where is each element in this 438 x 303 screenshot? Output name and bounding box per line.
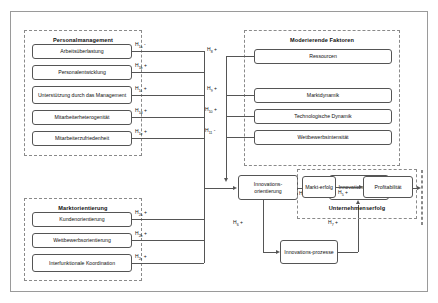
moderator-technologische-dynamik: Technologische Dynamik (254, 109, 392, 124)
hypothesis-h2b-sign: + (144, 230, 147, 236)
group-title-marktorientierung: Marktorientierung (25, 205, 141, 211)
construct-markterfolg: Markt-erfolg (302, 176, 336, 198)
construct-kundenorientierung: Kundenorientierung (32, 212, 132, 227)
hypothesis-h1e-sub: 1e (139, 132, 143, 136)
hypothesis-h5-sub: 5 (342, 193, 344, 197)
construct-wettbewerbsorientierung: Wettbewerbsorientierung (32, 233, 132, 248)
hypothesis-h6-sign: + (240, 219, 243, 225)
group-title-personalmanagement: Personalmanagement (25, 37, 141, 43)
moderator-ressourcen: Ressourcen (254, 49, 392, 64)
hypothesis-h5-sign: + (345, 189, 348, 195)
construct-interfunktionale-koordination: Interfunktionale Koordination (32, 254, 132, 272)
edge-h10 (226, 116, 254, 117)
hypothesis-h1c: H1c + (135, 85, 147, 93)
hypothesis-h7-sign: + (335, 219, 338, 225)
edge-h11 (226, 137, 254, 138)
hypothesis-h1b-sign: + (144, 62, 147, 68)
hypothesis-h1c-sign: + (144, 85, 147, 91)
edge-h1b (132, 72, 204, 73)
moderator-marktdynamik: Marktdynamik (254, 88, 392, 103)
hypothesis-h11: H11 - (205, 127, 215, 135)
hypothesis-h2a: H2a + (135, 209, 147, 217)
construct-unterstuetzung-management: Unterstützung durch das Management (32, 86, 132, 104)
hypothesis-h11-sign: - (214, 127, 216, 133)
hypothesis-h2c: H2c + (135, 253, 147, 261)
hypothesis-h8-sub: 8 (211, 50, 213, 54)
hypothesis-h1b: H1b + (135, 62, 147, 70)
arrowhead-h6 (276, 250, 280, 254)
hypothesis-h1e: H1e + (135, 128, 147, 136)
hypothesis-h2a-sub: 2a (139, 213, 143, 217)
hypothesis-h6: H6 + (233, 219, 243, 227)
hypothesis-h2b-sub: 2b (139, 234, 143, 238)
hypothesis-h1d-sub: 1d (139, 111, 143, 115)
construct-arbeitsueberlastung: Arbeitsüberlastung (32, 44, 132, 59)
bus-moderatoren (226, 56, 227, 178)
hypothesis-h1d-sign: + (144, 107, 147, 113)
construct-innovationsorientierung: Innovations-orientierung (238, 175, 298, 200)
edge-bus-to-orientierung (204, 188, 233, 189)
arrowhead-to-orientierung (233, 186, 237, 190)
arrowhead-h5 (359, 185, 363, 189)
hypothesis-h2c-sub: 2c (139, 257, 143, 261)
hypothesis-h10-sign: + (214, 106, 217, 112)
group-title-unternehmenserfolg: Unternehmenserfolg (297, 205, 417, 211)
hypothesis-h8: H8 + (207, 46, 217, 54)
edge-h2b (132, 240, 204, 241)
moderator-wettbewerbsintensitaet: Wettbewerbsintensität (254, 130, 392, 145)
edge-h6-horizontal (263, 252, 276, 253)
construct-mitarbeiterzufriedenheit: Mitarbeiterzufriedenheit (32, 131, 132, 146)
edge-h1e (132, 138, 204, 139)
edge-h8 (226, 56, 254, 57)
edge-h2a (132, 219, 204, 220)
group-title-moderierende-faktoren: Moderierende Faktoren (245, 37, 399, 43)
hypothesis-h1e-sign: + (144, 128, 147, 134)
hypothesis-h1c-sub: 1c (139, 89, 143, 93)
edge-h1a (132, 51, 204, 52)
hypothesis-h2a-sign: + (144, 209, 147, 215)
hypothesis-h6-sub: 6 (237, 223, 239, 227)
hypothesis-h9-sign: + (214, 85, 217, 91)
group-unternehmenserfolg (421, 170, 423, 225)
hypothesis-h5: H5 + (338, 189, 348, 197)
hypothesis-h1a: H1a - (135, 41, 146, 49)
hypothesis-h1a-sign: - (144, 41, 146, 47)
hypothesis-h1a-sub: 1a (139, 45, 143, 49)
hypothesis-h7: H7 + (328, 219, 338, 227)
construct-innovationsprozesse: Innovations-prozesse (280, 240, 338, 264)
edge-h5 (336, 187, 359, 188)
hypothesis-h2c-sign: + (144, 253, 147, 259)
bus-marktorientierung (204, 188, 205, 263)
hypothesis-h7-sub: 7 (332, 223, 334, 227)
construct-profitabilitaet: Profitabilität (363, 176, 413, 198)
hypothesis-h8-sign: + (214, 46, 217, 52)
diagram-frame: Personalmanagement Arbeitsüberlastung Pe… (10, 11, 428, 292)
construct-mitarbeiterheterogenitaet: Mitarbeiterheterogenität (32, 110, 132, 125)
hypothesis-h10-sub: 10 (209, 110, 213, 114)
hypothesis-h1b-sub: 1b (139, 66, 143, 70)
hypothesis-h2b: H2b + (135, 230, 147, 238)
diagram-canvas: Personalmanagement Arbeitsüberlastung Pe… (0, 0, 438, 303)
hypothesis-h11-sub: 11 (209, 131, 213, 135)
arrowhead-moderator-to-path (224, 178, 228, 182)
edge-h9 (226, 95, 254, 96)
edge-h7-horizontal (338, 252, 358, 253)
edge-h1c (132, 95, 204, 96)
hypothesis-h9: H9 + (207, 85, 217, 93)
hypothesis-h1d: H1d + (135, 107, 147, 115)
bus-personalmanagement (204, 51, 205, 188)
hypothesis-h10: H10 + (205, 106, 217, 114)
edge-h1d (132, 117, 204, 118)
construct-personalentwicklung: Personalentwicklung (32, 65, 132, 80)
edge-h6-vertical (263, 200, 264, 252)
hypothesis-h9-sub: 9 (211, 89, 213, 93)
edge-h2c (132, 263, 204, 264)
